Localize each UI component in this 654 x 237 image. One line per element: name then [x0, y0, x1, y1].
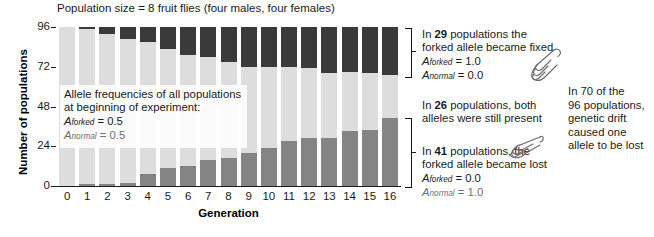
segment-lost — [241, 153, 257, 186]
segment-fixed — [362, 27, 378, 73]
bar-generation-15 — [362, 27, 378, 186]
segment-lost — [160, 168, 176, 186]
segment-lost — [99, 184, 115, 186]
segment-fixed — [180, 27, 196, 55]
y-tick-24: 24 — [37, 139, 50, 151]
allele-value: = 0.0 — [455, 172, 480, 184]
segment-fixed — [382, 27, 398, 75]
bar-generation-12 — [301, 27, 317, 186]
legend-box: Allele frequencies of all populations at… — [60, 85, 247, 148]
segment-fixed — [200, 27, 216, 57]
annotation-count: 26 — [435, 99, 448, 111]
segment-both — [362, 73, 378, 129]
segment-lost — [382, 118, 398, 186]
pointing-hand-icon — [500, 133, 544, 165]
bar-generation-10 — [261, 27, 277, 186]
y-tick-mark-96 — [51, 27, 56, 28]
annotation-count: 29 — [435, 28, 448, 40]
annotation-lost-allele-forked: Aforked = 0.0 — [422, 172, 562, 186]
segment-both — [321, 73, 337, 138]
annotation-summary-line-4: caused one — [568, 126, 654, 140]
annotation-lost-allele-normal: Anormal = 1.0 — [422, 186, 562, 200]
y-tick-48: 48 — [37, 100, 50, 112]
allele-symbol: A — [422, 55, 430, 67]
segment-fixed — [99, 27, 115, 34]
segment-lost — [342, 131, 358, 186]
y-tick-0: 0 — [44, 179, 50, 191]
allele-value: = 1.0 — [458, 186, 483, 198]
segment-lost — [140, 174, 156, 186]
chart-title: Population size = 8 fruit flies (four ma… — [57, 1, 335, 15]
annotation-fixed-line-1: In 29 populations the — [422, 28, 557, 41]
bracket-fixed-pointer — [411, 51, 416, 52]
segment-fixed — [160, 27, 176, 49]
segment-both — [301, 68, 317, 138]
y-tick-mark-0 — [51, 186, 56, 187]
x-tick-16: 16 — [375, 190, 405, 202]
y-tick-mark-24 — [51, 146, 56, 147]
annotation-summary-line-5: allele to be lost — [568, 139, 654, 153]
segment-lost — [321, 138, 337, 186]
segment-fixed — [321, 27, 337, 73]
segment-lost — [200, 160, 216, 187]
legend-allele-normal: Anormal = 0.5 — [64, 129, 241, 143]
segment-lost — [362, 130, 378, 186]
annotation-count: 41 — [435, 145, 448, 157]
bar-generation-13 — [321, 27, 337, 186]
bar-generation-16 — [382, 27, 398, 186]
bracket-fixed — [405, 28, 412, 78]
allele-value: = 0.5 — [100, 129, 125, 141]
segment-fixed — [140, 27, 156, 42]
allele-value: = 0.5 — [97, 115, 122, 127]
allele-value: = 1.0 — [455, 55, 480, 67]
allele-subscript: forked — [430, 175, 453, 184]
annotation-summary-line-2: 96 populations, — [568, 99, 654, 113]
segment-lost — [281, 141, 297, 186]
annotation-prefix: In — [422, 28, 431, 40]
bracket-lost-pointer — [411, 152, 416, 153]
x-axis-label: Generation — [57, 207, 400, 219]
segment-fixed — [342, 27, 358, 72]
allele-symbol: A — [422, 186, 430, 198]
segment-lost — [120, 183, 136, 186]
annotation-both-line-2: alleles were still present — [422, 112, 562, 125]
allele-subscript: forked — [72, 118, 95, 127]
figure-root: Population size = 8 fruit flies (four ma… — [0, 0, 654, 237]
y-tick-mark-48 — [51, 107, 56, 108]
segment-both — [382, 75, 398, 118]
segment-both — [281, 67, 297, 142]
allele-symbol: A — [64, 129, 72, 141]
allele-value: = 0.0 — [458, 69, 483, 81]
allele-symbol: A — [422, 172, 430, 184]
legend-allele-forked: Aforked = 0.5 — [64, 115, 241, 129]
legend-line-2: at beginning of experiment: — [64, 101, 241, 114]
segment-both — [342, 72, 358, 132]
segment-fixed — [281, 27, 297, 67]
annotation-both-line-1: In 26 populations, both — [422, 99, 562, 112]
y-tick-96: 96 — [37, 20, 50, 32]
bar-generation-14 — [342, 27, 358, 186]
segment-both — [261, 67, 277, 148]
legend-line-1: Allele frequencies of all populations — [64, 88, 241, 101]
allele-subscript: normal — [72, 132, 97, 141]
allele-subscript: forked — [430, 58, 453, 67]
segment-lost — [301, 138, 317, 186]
segment-fixed — [120, 27, 136, 39]
segment-fixed — [221, 27, 237, 62]
y-axis-ticks: 024487296 — [24, 0, 50, 237]
annotation-prefix: In — [422, 99, 431, 111]
y-tick-72: 72 — [37, 60, 50, 72]
segment-lost — [79, 184, 95, 186]
annotation-summary: In 70 of the 96 populations, genetic dri… — [568, 85, 654, 153]
annotation-prefix: In — [422, 145, 431, 157]
y-tick-mark-72 — [51, 67, 56, 68]
allele-subscript: normal — [430, 189, 455, 198]
allele-subscript: normal — [430, 72, 455, 81]
annotation-summary-line-1: In 70 of the — [568, 85, 654, 99]
allele-symbol: A — [422, 69, 430, 81]
bar-generation-11 — [281, 27, 297, 186]
segment-lost — [180, 166, 196, 186]
annotation-rest: populations, both — [450, 99, 536, 111]
x-axis-line — [56, 186, 401, 187]
annotation-rest: populations the — [450, 28, 527, 40]
